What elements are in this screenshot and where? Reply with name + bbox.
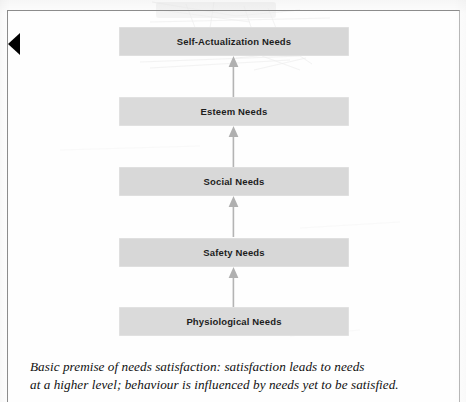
caption-line-1: Basic premise of needs satisfaction: sat… [30, 358, 450, 376]
need-level-social: Social Needs [119, 167, 349, 196]
need-level-label: Self-Actualization Needs [177, 36, 291, 47]
up-arrow-icon [228, 196, 239, 237]
up-arrow-icon [228, 56, 239, 97]
need-level-safety: Safety Needs [119, 238, 349, 267]
needs-hierarchy-diagram: Self-Actualization Needs Esteem Needs So… [0, 0, 466, 348]
need-level-physiological: Physiological Needs [119, 307, 349, 336]
need-level-label: Social Needs [204, 176, 265, 187]
figure-caption: Basic premise of needs satisfaction: sat… [30, 358, 450, 393]
caption-line-2: at a higher level; behaviour is influenc… [30, 376, 450, 394]
need-level-self-actualization: Self-Actualization Needs [119, 27, 349, 56]
up-arrow-icon [228, 126, 239, 167]
need-level-label: Physiological Needs [186, 316, 281, 327]
need-level-esteem: Esteem Needs [119, 97, 349, 126]
need-level-label: Esteem Needs [201, 106, 268, 117]
up-arrow-icon [228, 267, 239, 308]
scanned-page: Self-Actualization Needs Esteem Needs So… [0, 0, 466, 402]
need-level-label: Safety Needs [203, 247, 264, 258]
